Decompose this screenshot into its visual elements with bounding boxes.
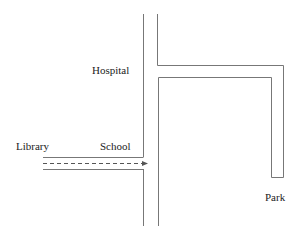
label-library: Library xyxy=(16,141,49,152)
road-map xyxy=(0,0,303,237)
route-arrow xyxy=(43,161,148,166)
label-park: Park xyxy=(265,192,285,203)
label-school: School xyxy=(100,141,131,152)
label-hospital: Hospital xyxy=(92,65,129,76)
map-canvas: Hospital Library School Park xyxy=(0,0,303,237)
